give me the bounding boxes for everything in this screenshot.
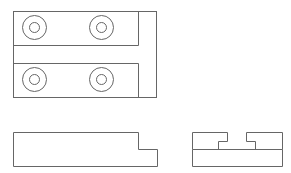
counterbore-circle-1 <box>23 16 47 40</box>
side-view <box>193 133 283 167</box>
front-view <box>14 133 158 167</box>
side-view-base-outline <box>193 150 283 167</box>
hole-circle-2 <box>97 23 107 33</box>
side-view-left-step <box>193 133 228 150</box>
hole-circle-1 <box>30 23 40 33</box>
hole-circle-3 <box>30 75 40 85</box>
counterbore-circle-3 <box>23 68 47 92</box>
top-view <box>14 12 157 98</box>
front-view-outline <box>14 133 158 167</box>
side-view-right-step <box>247 133 283 150</box>
technical-drawing <box>0 0 291 173</box>
counterbore-circle-4 <box>90 68 114 92</box>
counterbore-circle-2 <box>90 16 114 40</box>
hole-circle-4 <box>97 75 107 85</box>
